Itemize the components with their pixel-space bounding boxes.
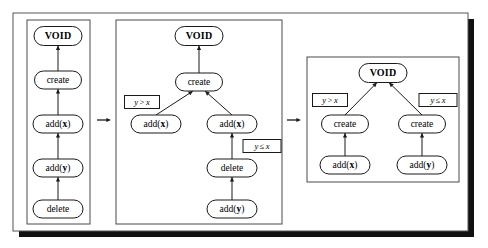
node-label: add(x) [144,119,169,130]
node-label-prefix: add( [46,119,63,130]
node-label: add(y) [46,163,71,174]
node-create: create [35,71,82,89]
node-label: create [188,77,211,87]
condition-operator: ≤ [260,140,265,150]
condition-label-y-le-x-text: y≤x [429,94,445,104]
node-label-prefix: add( [220,204,237,215]
condition-left-operand: y [429,94,434,104]
node-add-y: add(y) [33,159,83,177]
operation-tree-diagram: VOIDcreateadd(x)add(y)deleteVOIDcreatead… [0,0,488,248]
node-label: add(y) [410,160,435,171]
node-create-right: create [399,115,446,133]
condition-left-operand: y [253,140,258,150]
node-label: VOID [370,67,397,78]
condition-operator: > [140,96,145,106]
condition-right-operand: x [145,96,150,106]
node-label-suffix: ) [67,119,70,130]
node-create: create [176,73,223,91]
node-label: add(x) [46,119,71,130]
node-add-y: add(y) [397,156,447,174]
node-label-suffix: ) [431,160,434,171]
node-add-x-left: add(x) [131,115,181,133]
node-label: add(x) [220,119,245,130]
condition-operator: ≤ [436,94,441,104]
condition-label-y-gt-x-text: y>x [321,94,338,104]
node-void: VOID [175,27,223,46]
condition-label-y-gt-x-text: y>x [133,96,150,106]
node-label: VOID [186,30,213,41]
condition-left-operand: y [133,96,138,106]
node-label-suffix: ) [241,119,244,130]
node-label: delete [221,163,244,173]
condition-left-operand: y [321,94,326,104]
node-label-prefix: add( [410,160,427,171]
node-label-suffix: ) [165,119,168,130]
node-label-prefix: add( [220,119,237,130]
node-label: create [411,119,434,129]
condition-right-operand: x [265,140,270,150]
node-add-x-right: add(x) [207,115,257,133]
node-label-prefix: add( [144,119,161,130]
node-label: create [47,75,70,85]
condition-operator: > [328,94,333,104]
node-add-x: add(x) [33,115,83,133]
node-add-y: add(y) [207,200,257,218]
node-create-left: create [322,115,369,133]
node-label-prefix: add( [333,160,350,171]
node-label-suffix: ) [241,204,244,215]
node-label-suffix: ) [67,163,70,174]
node-label: add(y) [220,204,245,215]
node-label: add(x) [333,160,358,171]
node-add-x: add(x) [320,156,370,174]
node-label: VOID [45,30,72,41]
node-label: delete [47,204,70,214]
node-void: VOID [34,27,82,46]
condition-right-operand: x [333,94,338,104]
node-void: VOID [359,64,407,83]
condition-right-operand: x [441,94,446,104]
condition-label-y-le-x-text: y≤x [253,140,269,150]
node-label-suffix: ) [354,160,357,171]
node-label-prefix: add( [46,163,63,174]
node-delete: delete [207,159,257,177]
node-delete: delete [33,200,83,218]
figure-container: VOIDcreateadd(x)add(y)deleteVOIDcreatead… [0,0,488,248]
node-label: create [334,119,357,129]
